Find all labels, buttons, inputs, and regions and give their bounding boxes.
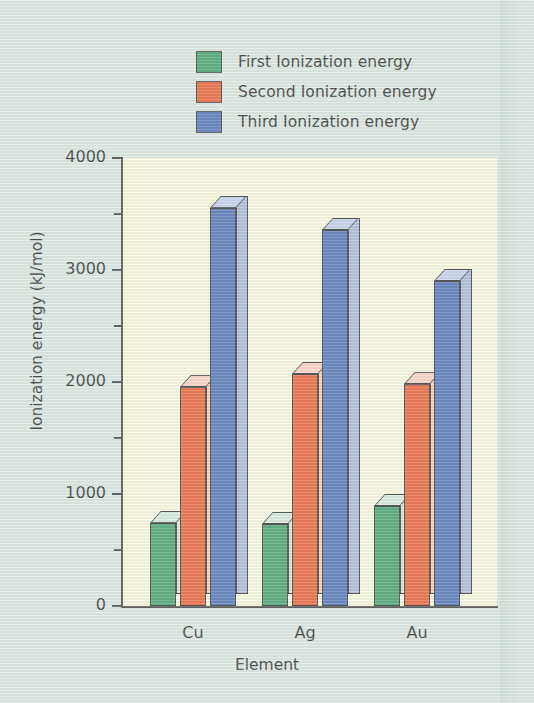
y-tick-minor	[114, 325, 123, 327]
y-tick-label: 4000	[36, 147, 106, 166]
legend-label-third-ionization: Third Ionization energy	[238, 113, 419, 131]
x-axis-line	[121, 606, 498, 608]
legend-label-first-ionization: First Ionization energy	[238, 53, 412, 71]
bar-front-face	[262, 524, 288, 606]
y-tick-label: 2000	[36, 371, 106, 390]
legend-swatch-second-ionization	[196, 81, 222, 103]
y-axis-title: Ionization energy (kJ/mol)	[28, 186, 46, 476]
bar-front-face	[292, 374, 318, 606]
bar-side-face	[348, 218, 360, 594]
y-tick-label: 1000	[36, 483, 106, 502]
x-tick-label-cu: Cu	[153, 623, 233, 642]
bar-front-face	[404, 384, 430, 606]
legend-item-third-ionization: Third Ionization energy	[196, 107, 437, 137]
bar-front-face	[180, 387, 206, 606]
bar-front-face	[322, 230, 348, 606]
bar-top-face	[322, 218, 360, 230]
bar-top-face	[210, 196, 248, 208]
bar-front-face	[210, 208, 236, 606]
x-tick-label-au: Au	[377, 623, 457, 642]
legend-item-second-ionization: Second Ionization energy	[196, 77, 437, 107]
chart-legend: First Ionization energy Second Ionizatio…	[196, 47, 437, 137]
bar-front-face	[150, 523, 176, 606]
bar-front-face	[434, 281, 460, 606]
y-tick-minor	[114, 213, 123, 215]
y-tick-minor	[114, 437, 123, 439]
bar-cu-3	[210, 196, 248, 606]
bar-ag-3	[322, 218, 360, 606]
legend-label-second-ionization: Second Ionization energy	[238, 83, 437, 101]
page-edge-band	[500, 0, 534, 703]
y-tick-label: 0	[36, 595, 106, 614]
bar-au-3	[434, 269, 472, 606]
x-tick-label-ag: Ag	[265, 623, 345, 642]
y-tick-major	[112, 157, 123, 159]
y-tick-minor	[114, 549, 123, 551]
legend-item-first-ionization: First Ionization energy	[196, 47, 437, 77]
y-tick-label: 3000	[36, 259, 106, 278]
y-tick-major	[112, 269, 123, 271]
x-axis-title: Element	[0, 656, 534, 674]
y-tick-major	[112, 381, 123, 383]
bar-side-face	[460, 269, 472, 594]
legend-swatch-third-ionization	[196, 111, 222, 133]
legend-swatch-first-ionization	[196, 51, 222, 73]
y-tick-major	[112, 605, 123, 607]
y-tick-major	[112, 493, 123, 495]
bar-side-face	[236, 196, 248, 594]
bar-front-face	[374, 506, 400, 606]
bar-top-face	[434, 269, 472, 281]
